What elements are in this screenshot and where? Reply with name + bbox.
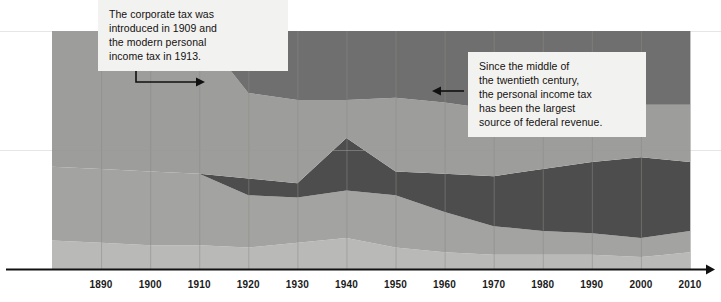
x-tick-label-1990: 1990 (580, 279, 603, 290)
x-tick-label-group: 1890190019101920193019401950196019701980… (90, 279, 702, 290)
x-tick-label-1960: 1960 (433, 279, 456, 290)
federal-revenue-composition-chart: 1890190019101920193019401950196019701980… (0, 0, 721, 302)
x-tick-label-2000: 2000 (629, 279, 652, 290)
x-tick-label-1910: 1910 (188, 279, 211, 290)
x-tick-label-1900: 1900 (139, 279, 162, 290)
x-tick-label-1940: 1940 (335, 279, 358, 290)
x-tick-label-1950: 1950 (384, 279, 407, 290)
x-tick-label-1980: 1980 (531, 279, 554, 290)
axis-arrowhead (706, 265, 715, 275)
x-tick-label-2010: 2010 (678, 279, 701, 290)
x-tick-label-1930: 1930 (286, 279, 309, 290)
annotation-corporate-tax: The corporate tax was introduced in 1909… (98, 0, 288, 71)
annotation-income-tax: Since the middle of the twentieth centur… (468, 52, 646, 137)
x-tick-label-1920: 1920 (237, 279, 260, 290)
x-tick-label-1970: 1970 (482, 279, 505, 290)
x-tick-label-1890: 1890 (90, 279, 113, 290)
